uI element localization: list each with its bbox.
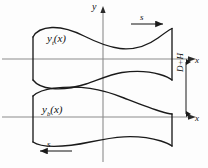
label-lower-body: yb(x) [42, 104, 63, 118]
diagram-svg [0, 0, 208, 168]
label-upper-body: yt(x) [47, 33, 66, 47]
label-dimension-dh: D+H [176, 53, 185, 72]
label-lower-arg: (x) [50, 103, 62, 115]
x-axis-bottom [2, 114, 196, 120]
label-upper-arg: (x) [54, 32, 66, 44]
label-y-axis: y [92, 2, 96, 12]
label-x-axis-top: x [195, 56, 199, 65]
y-axis-arrowhead [100, 6, 105, 13]
label-flow-top: s [140, 13, 144, 22]
figure-canvas: yt(x) yb(x) y x x s s D+H [0, 0, 208, 168]
label-flow-bottom: s [47, 140, 51, 149]
x-axis-top [2, 56, 196, 62]
label-x-axis-bottom: x [195, 114, 199, 123]
